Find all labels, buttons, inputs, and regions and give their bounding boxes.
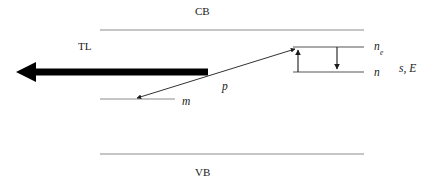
conduction-band-label: CB xyxy=(195,6,210,17)
thermoluminescence-arrow xyxy=(16,62,208,82)
thermoluminescence-label: TL xyxy=(78,41,91,52)
trap-level-label: n xyxy=(374,67,380,79)
valence-band-label: VB xyxy=(195,167,210,178)
excited-trap-level-label-base: n xyxy=(374,40,380,52)
rate-constants-label: s, E xyxy=(399,63,416,75)
excited-trap-level-label-subscript: e xyxy=(380,48,383,57)
excited-trap-level-label: ne xyxy=(374,41,383,55)
recombination-level-label: m xyxy=(182,96,190,108)
recombination-probability-label: p xyxy=(222,81,228,93)
band-diagram-canvas xyxy=(0,0,440,188)
energy-band-diagram: CB VB TL ne n m p s, E xyxy=(0,0,440,188)
